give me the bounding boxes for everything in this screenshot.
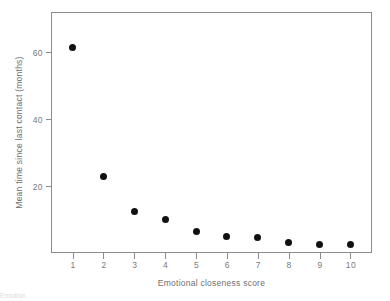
x-axis-tick: 1 xyxy=(73,253,74,259)
figure-caption-fragment: Emotion xyxy=(0,292,390,301)
y-axis-tick-label: 20 xyxy=(33,182,43,192)
y-axis-tick-label: 40 xyxy=(33,115,43,125)
y-axis-tick: 40 xyxy=(46,119,51,120)
data-point xyxy=(69,44,76,51)
x-axis-tick: 4 xyxy=(165,253,166,259)
x-axis-tick-label: 9 xyxy=(317,260,322,270)
x-axis-tick-label: 8 xyxy=(287,260,292,270)
x-axis-tick: 9 xyxy=(320,253,321,259)
data-point xyxy=(254,234,261,241)
x-axis-tick-label: 5 xyxy=(194,260,199,270)
x-axis-tick: 8 xyxy=(289,253,290,259)
x-axis-title: Emotional closeness score xyxy=(51,278,372,288)
data-point xyxy=(316,241,323,248)
x-axis-tick-label: 10 xyxy=(346,260,356,270)
x-axis-tick-label: 7 xyxy=(256,260,261,270)
x-axis-tick-label: 2 xyxy=(101,260,106,270)
x-axis-tick: 6 xyxy=(227,253,228,259)
data-point xyxy=(285,239,292,246)
y-axis-tick-label: 60 xyxy=(33,48,43,58)
plot-area: 20406012345678910 xyxy=(51,12,372,253)
y-axis-title: Mean time since last contact (months) xyxy=(14,12,28,253)
data-point xyxy=(100,173,107,180)
x-axis-tick: 7 xyxy=(258,253,259,259)
data-point xyxy=(131,208,138,215)
y-axis-tick: 60 xyxy=(46,52,51,53)
y-axis-tick: 20 xyxy=(46,186,51,187)
x-axis-tick: 5 xyxy=(196,253,197,259)
figure-container: 20406012345678910 Emotional closeness sc… xyxy=(0,0,390,301)
data-point xyxy=(223,233,230,240)
x-axis-tick: 2 xyxy=(103,253,104,259)
x-axis-tick-label: 6 xyxy=(225,260,230,270)
data-point xyxy=(347,241,354,248)
x-axis-tick-label: 1 xyxy=(71,260,76,270)
x-axis-tick: 10 xyxy=(350,253,351,259)
x-axis-tick-label: 4 xyxy=(163,260,168,270)
x-axis-tick: 3 xyxy=(134,253,135,259)
data-point xyxy=(193,228,200,235)
data-point xyxy=(162,216,169,223)
x-axis-tick-label: 3 xyxy=(132,260,137,270)
